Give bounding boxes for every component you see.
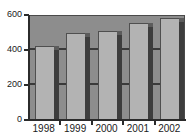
- bar-top-shadow: [54, 46, 59, 50]
- bar-top-shadow: [179, 18, 184, 22]
- y-axis-line: [28, 15, 30, 121]
- y-tick-label: 600: [7, 10, 22, 19]
- plot-area: [28, 15, 185, 120]
- bar: [98, 16, 122, 119]
- bar-face: [35, 46, 54, 120]
- bar-top-shadow: [148, 23, 153, 27]
- y-tick-label: 200: [7, 80, 22, 89]
- x-tick-label: 2001: [122, 123, 154, 134]
- y-tick-mark: [24, 84, 29, 86]
- x-tick-label: 2000: [91, 123, 123, 134]
- y-tick-label: 0: [17, 115, 22, 124]
- bar-side-shadow: [148, 26, 153, 119]
- bar-chart: 0200400600 19981999200020012002: [0, 0, 188, 136]
- bar-side-shadow: [117, 34, 122, 119]
- y-tick-label: 400: [7, 45, 22, 54]
- bar-face: [160, 18, 179, 119]
- bar-top-shadow: [117, 31, 122, 35]
- x-axis-line: [28, 119, 186, 121]
- y-tick-mark: [24, 49, 29, 51]
- bar-side-shadow: [179, 21, 184, 119]
- bar-side-shadow: [54, 49, 59, 120]
- bar-face: [129, 23, 148, 119]
- bar: [129, 16, 153, 119]
- bar: [66, 16, 90, 119]
- bar-face: [66, 33, 85, 119]
- bar-side-shadow: [85, 36, 90, 119]
- bar-top-shadow: [85, 33, 90, 37]
- y-tick-mark: [24, 119, 29, 121]
- y-tick-mark: [24, 14, 29, 16]
- bar: [35, 16, 59, 119]
- bar-face: [98, 31, 117, 119]
- x-tick-label: 1998: [28, 123, 60, 134]
- x-tick-label: 2002: [153, 123, 185, 134]
- bar: [160, 16, 184, 119]
- x-tick-label: 1999: [59, 123, 91, 134]
